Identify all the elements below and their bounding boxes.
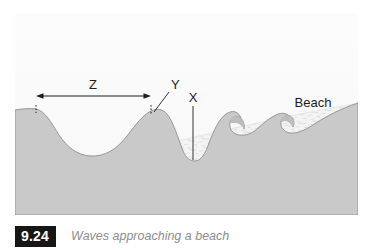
figure-container: Z Y X Beach 9.24 Waves approaching a bea… (0, 0, 370, 252)
figure-number-badge: 9.24 (15, 226, 56, 247)
figure-caption-row: 9.24 Waves approaching a beach (15, 226, 229, 247)
figure-caption-text: Waves approaching a beach (71, 226, 229, 247)
waves-diagram: Z Y X Beach (15, 13, 358, 215)
label-crest-y: Y (171, 77, 180, 92)
label-beach: Beach (295, 95, 332, 110)
illustration-panel: Z Y X Beach (15, 13, 358, 215)
label-wavelength-z: Z (89, 77, 97, 92)
label-trough-x: X (189, 90, 198, 105)
